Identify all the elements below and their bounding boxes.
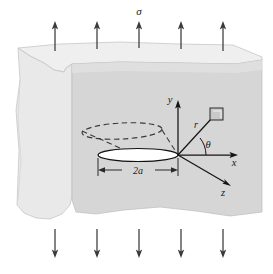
stress-label-sigma: σ (136, 5, 142, 17)
y-axis-label: y (167, 94, 173, 105)
theta-label: θ (205, 139, 210, 150)
crack-dimension-label: 2a (133, 165, 143, 176)
x-axis-label: x (231, 157, 237, 168)
load-arrow-down (178, 229, 184, 258)
block-left-face (16, 48, 72, 219)
material-element-box (210, 108, 223, 120)
load-arrow-down (94, 229, 100, 258)
solid-block-group (16, 42, 262, 219)
bottom-load-arrows (52, 229, 226, 258)
load-arrow-down (52, 229, 58, 258)
figure-diagram: σ (0, 0, 273, 274)
figure-container: σ (0, 0, 273, 274)
load-arrow-down (220, 229, 226, 258)
z-axis-label: z (220, 187, 225, 198)
radius-label: r (194, 119, 198, 130)
load-arrow-down (136, 229, 142, 258)
penny-shaped-crack (98, 149, 178, 162)
